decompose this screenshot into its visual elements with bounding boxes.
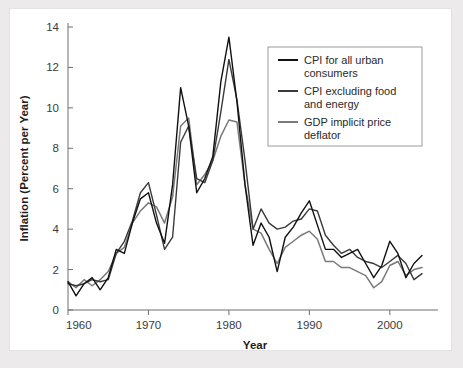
x-tick-label: 2000: [377, 319, 403, 331]
chart-legend: CPI for all urbanconsumersCPI excluding …: [268, 47, 422, 146]
legend-label-2: and energy: [304, 98, 360, 110]
y-tick-label: 2: [53, 264, 59, 276]
y-axis-title: Inflation (Percent per Year): [18, 95, 30, 241]
x-axis-title: Year: [243, 339, 268, 350]
y-tick-label: 14: [46, 21, 59, 33]
legend-label-1: CPI for all urban: [304, 54, 383, 66]
x-tick-label: 1980: [216, 319, 242, 331]
y-tick-label: 0: [53, 304, 59, 316]
legend-label-2: CPI excluding food: [304, 85, 396, 97]
legend-label-3: GDP implicit price: [304, 116, 391, 128]
y-tick-label: 8: [53, 142, 59, 154]
y-tick-label: 4: [53, 223, 60, 235]
y-tick-label: 10: [46, 102, 59, 114]
x-tick-label: 1970: [136, 319, 162, 331]
y-tick-label: 12: [46, 61, 59, 73]
legend-label-1: consumers: [304, 67, 358, 79]
inflation-line-chart: 02468101214 19601970198019902000 CPI for…: [10, 9, 451, 350]
x-tick-group: 19601970198019902000: [66, 310, 403, 331]
y-axis: 02468101214: [46, 21, 73, 316]
y-tick-label: 6: [53, 183, 59, 195]
y-tick-group: 02468101214: [46, 21, 73, 316]
figure-page: 02468101214 19601970198019902000 CPI for…: [0, 0, 463, 368]
x-axis: 19601970198019902000: [66, 310, 438, 331]
x-tick-label: 1960: [66, 319, 92, 331]
legend-label-3: deflator: [304, 129, 341, 141]
chart-card: 02468101214 19601970198019902000 CPI for…: [10, 9, 451, 350]
x-tick-label: 1990: [297, 319, 323, 331]
